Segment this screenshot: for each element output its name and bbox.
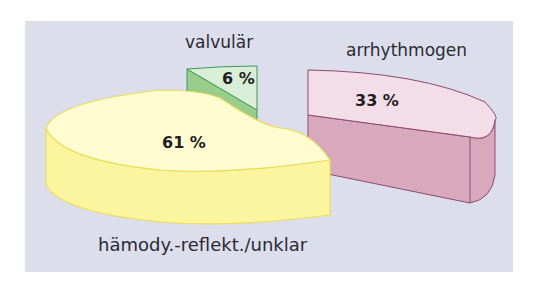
value-haemody: 61 % [162, 135, 206, 151]
slice-arrhythmogen [308, 70, 496, 203]
label-valvular: valvulär [185, 34, 253, 51]
value-arrhythmogen: 33 % [355, 93, 399, 109]
label-haemody: hämody.-reflekt./unklar [98, 236, 307, 254]
label-arrhythmogen: arrhythmogen [346, 42, 467, 59]
slice-haemody [46, 90, 330, 224]
value-valvular: 6 % [222, 71, 255, 87]
